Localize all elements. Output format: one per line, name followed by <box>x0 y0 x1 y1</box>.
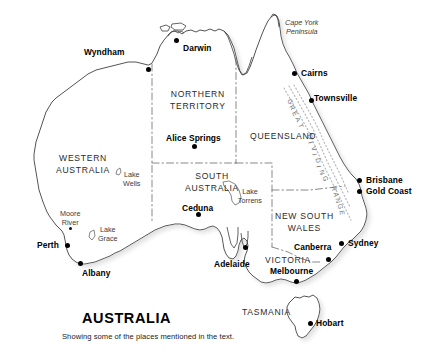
city-label-adelaide[interactable]: Adelaide <box>214 260 250 269</box>
range-label-letter: N <box>319 170 327 176</box>
tasmania-coastline <box>287 295 320 338</box>
state-label-line: AUSTRALIA <box>185 182 239 194</box>
feature-label-cape-york-peninsula: Cape YorkPeninsula <box>285 18 318 36</box>
state-label-line: VICTORIA <box>265 256 311 265</box>
city-label-albany[interactable]: Albany <box>82 269 111 278</box>
city-dot-cairns[interactable] <box>292 71 297 76</box>
range-label-letter: R <box>331 186 339 192</box>
state-label-line: TASMANIA <box>242 308 291 317</box>
feature-label-line: Lake <box>123 170 140 179</box>
range-label-letter: D <box>315 158 323 164</box>
state-label-line: NORTHERN <box>170 88 226 100</box>
city-dot-darwin[interactable] <box>174 38 179 43</box>
feature-label-line: Moore <box>60 209 80 218</box>
city-dot-sydney[interactable] <box>339 241 344 246</box>
feature-label-line: River <box>60 218 80 227</box>
city-dot-albany[interactable] <box>78 261 83 266</box>
state-label-victoria: VICTORIA <box>265 256 311 265</box>
state-label-tasmania: TASMANIA <box>242 308 291 317</box>
feature-label-line: Wells <box>123 179 140 188</box>
city-label-canberra[interactable]: Canberra <box>294 243 332 252</box>
city-label-darwin[interactable]: Darwin <box>183 44 212 53</box>
melville-island <box>171 23 186 30</box>
city-dot-townsville[interactable] <box>309 98 314 103</box>
city-dot-brisbane[interactable] <box>357 178 362 183</box>
feature-label-lake-grace: LakeGrace <box>98 225 118 243</box>
city-dot-wyndham[interactable] <box>146 67 151 72</box>
state-label-line: WALES <box>275 222 334 234</box>
city-label-gold-coast[interactable]: Gold Coast <box>366 187 412 196</box>
map-caption: Showing some of the places mentioned in … <box>62 333 234 341</box>
state-label-line: NEW SOUTH <box>275 210 334 222</box>
state-label-new-south-wales: NEW SOUTHWALES <box>275 210 334 235</box>
city-dot-adelaide[interactable] <box>243 245 248 250</box>
feature-label-lake-wells: LakeWells <box>123 170 140 188</box>
city-dot-hobart[interactable] <box>308 321 313 326</box>
state-label-western-australia: WESTERNAUSTRALIA <box>56 152 110 177</box>
city-label-perth[interactable]: Perth <box>37 241 59 250</box>
tiwi-islands <box>160 23 186 31</box>
feature-label-line: Grace <box>98 234 118 243</box>
city-label-alice-springs[interactable]: Alice Springs <box>166 134 221 143</box>
state-label-south-australia: SOUTHAUSTRALIA <box>185 170 239 195</box>
feature-label-line: Cape York <box>285 18 318 27</box>
map-title: AUSTRALIA <box>82 311 171 326</box>
range-label-letter: N <box>335 198 343 204</box>
city-dot-melbourne[interactable] <box>294 279 299 284</box>
state-label-line: AUSTRALIA <box>56 164 110 176</box>
state-label-northern-territory: NORTHERNTERRITORY <box>170 88 226 113</box>
feature-label-line: Lake <box>98 225 118 234</box>
bathurst-island <box>160 25 170 31</box>
feature-label-line: Peninsula <box>285 27 318 36</box>
city-label-brisbane[interactable]: Brisbane <box>366 176 403 185</box>
city-label-cairns[interactable]: Cairns <box>301 69 328 78</box>
feature-label-moore-river: MooreRiver <box>60 209 80 227</box>
city-label-townsville[interactable]: Townsville <box>314 94 357 103</box>
map-dot-moore-river <box>69 227 72 230</box>
range-label-letter: G <box>337 203 345 209</box>
city-label-ceduna[interactable]: Ceduna <box>182 204 213 213</box>
city-dot-alice-springs[interactable] <box>192 144 197 149</box>
state-label-line: WESTERN <box>56 152 110 164</box>
city-label-hobart[interactable]: Hobart <box>316 319 344 328</box>
feature-label-lake-torrens: LakeTorrens <box>238 187 262 205</box>
australia-map-figure: WESTERNAUSTRALIANORTHERNTERRITORYSOUTHAU… <box>0 0 430 361</box>
feature-label-line: Torrens <box>238 196 262 205</box>
state-label-line: TERRITORY <box>170 100 226 112</box>
city-dot-canberra[interactable] <box>326 257 331 262</box>
state-label-line: SOUTH <box>185 170 239 182</box>
city-dot-perth[interactable] <box>65 243 70 248</box>
city-label-melbourne[interactable]: Melbourne <box>270 267 313 276</box>
city-label-sydney[interactable]: Sydney <box>348 239 378 248</box>
city-label-wyndham[interactable]: Wyndham <box>84 48 125 57</box>
feature-label-line: Lake <box>238 187 262 196</box>
city-dot-gold-coast[interactable] <box>357 189 362 194</box>
tasmania-shape <box>287 295 320 338</box>
